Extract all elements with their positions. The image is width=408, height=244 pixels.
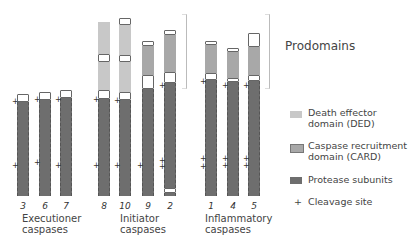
caspase-8-bar [98,22,110,196]
prodomain-bracket-inflammatory [265,14,270,89]
legend-protease-swatch [290,177,302,184]
legend-protease-label: Protease subunits [308,174,393,185]
legend-card-swatch [290,144,304,153]
caspase-number: 4 [226,201,240,211]
caspase-diagram: + + + + + + + + + + + [0,0,408,244]
legend-cleavage-label: Cleavage site [308,196,372,207]
caspase-number: 3 [16,201,30,211]
caspase-7-bar [60,90,72,196]
group-label-initiator: Initiatorcaspases [120,213,166,235]
caspase-number: 5 [247,201,261,211]
caspase-number: 6 [38,201,52,211]
legend-ded-swatch [290,111,302,118]
caspase-10-bar [119,18,131,196]
caspase-number: 10 [118,201,132,211]
prodomains-title: Prodomains [285,41,355,52]
caspase-6-bar [39,92,51,196]
caspase-number: 1 [204,201,218,211]
legend-card-label: Caspase recruitmentdomain (CARD) [308,140,407,162]
caspase-number: 2 [163,201,177,211]
caspase-9-bar [142,41,154,196]
group-label-executioner: Executionercaspases [22,213,81,235]
caspase-number: 9 [141,201,155,211]
group-label-inflammatory: Inflammatorycaspases [205,213,272,235]
caspase-3-bar [17,94,29,196]
caspase-5-bar [248,33,260,196]
prodomain-bracket-initiator [182,14,187,89]
caspase-1-bar [205,41,217,196]
caspase-4-bar [227,48,239,196]
legend-ded-label: Death effectordomain (DED) [308,107,377,129]
legend-cleavage-symbol: + [294,196,302,207]
caspase-number: 7 [59,201,73,211]
caspase-number: 8 [97,201,111,211]
caspase-2-bar [164,30,176,196]
